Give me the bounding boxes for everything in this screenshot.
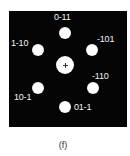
spot-upper-right (86, 44, 98, 56)
spot-lower-right (87, 82, 99, 94)
figure-caption: (f) (0, 140, 126, 150)
spot-top (59, 27, 71, 39)
spot-label-lower-left: 10-1 (14, 93, 31, 102)
spot-label-bottom: 01-1 (74, 103, 91, 112)
spot-label-upper-left: 1-10 (11, 39, 28, 48)
spot-label-lower-right: -110 (92, 72, 109, 81)
spot-label-top: 0-11 (54, 13, 71, 22)
center-cross-icon (63, 63, 68, 68)
center-spot (56, 56, 74, 74)
spot-label-upper-right: -101 (97, 35, 114, 44)
spot-lower-left (32, 82, 44, 94)
spot-upper-left (32, 44, 44, 56)
spot-bottom (59, 101, 71, 113)
